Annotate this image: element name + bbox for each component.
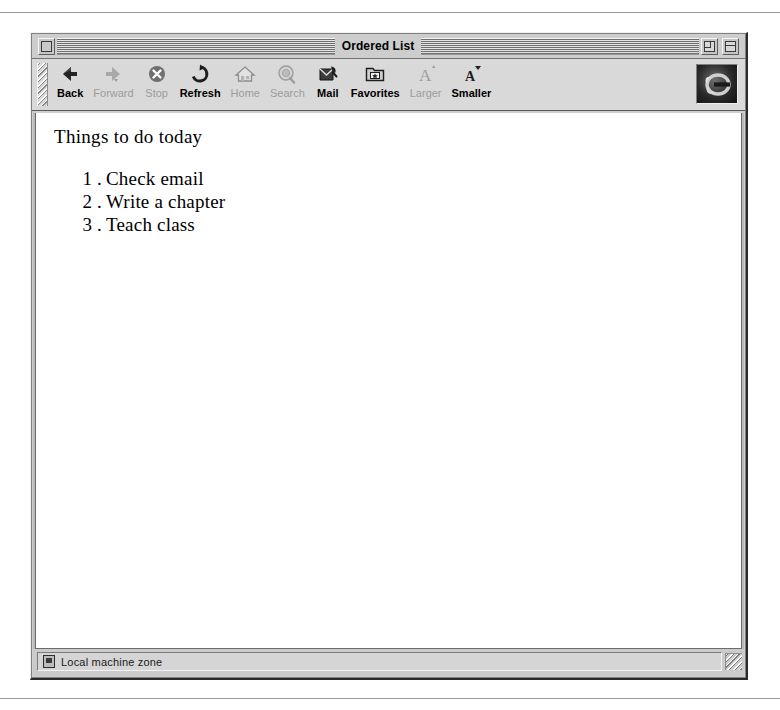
toolbar-label-forward: Forward xyxy=(93,87,133,99)
collapse-box[interactable] xyxy=(722,38,739,55)
stop-x-circle-icon xyxy=(144,63,170,85)
security-zone-field[interactable]: Local machine zone xyxy=(37,652,722,671)
toolbar-button-refresh[interactable]: Refresh xyxy=(175,63,226,99)
toolbar-button-search[interactable]: Search xyxy=(265,63,310,99)
toolbar-drag-handle[interactable] xyxy=(37,63,48,106)
toolbar-label-larger: Larger xyxy=(410,87,442,99)
toolbar-label-mail: Mail xyxy=(317,87,338,99)
toolbar-button-forward[interactable]: Forward xyxy=(88,63,138,99)
page-rule-bottom xyxy=(0,698,780,699)
list-item: 2 . Write a chapter xyxy=(106,190,725,213)
favorites-folder-star-icon xyxy=(362,63,388,85)
list-item-marker: 3 . xyxy=(76,213,102,236)
toolbar-button-group: Back Forward xyxy=(52,59,696,110)
resize-grip[interactable] xyxy=(725,653,742,670)
internet-explorer-logo[interactable] xyxy=(696,64,738,104)
toolbar-button-mail[interactable]: Mail xyxy=(310,63,346,99)
titlebar-pinstripe-right xyxy=(421,38,699,55)
toolbar-button-smaller[interactable]: A Smaller xyxy=(447,63,497,99)
search-magnifier-icon xyxy=(274,63,300,85)
toolbar-label-stop: Stop xyxy=(145,87,168,99)
list-item-text: Write a chapter xyxy=(106,191,225,212)
toolbar-label-search: Search xyxy=(270,87,305,99)
local-machine-zone-icon xyxy=(43,655,55,668)
content-area-well: Things to do today 1 . Check email 2 . W… xyxy=(33,113,744,649)
window-title: Ordered List xyxy=(335,40,422,53)
toolbar-label-favorites: Favorites xyxy=(351,87,400,99)
list-item-text: Check email xyxy=(106,168,204,189)
list-item: 3 . Teach class xyxy=(106,213,725,236)
page-heading: Things to do today xyxy=(54,125,725,149)
toolbar-button-home[interactable]: Home xyxy=(226,63,265,99)
browser-toolbar: Back Forward xyxy=(32,59,745,111)
home-house-icon xyxy=(232,63,258,85)
text-larger-a-icon: A xyxy=(413,63,439,85)
toolbar-label-refresh: Refresh xyxy=(180,87,221,99)
toolbar-label-back: Back xyxy=(57,87,83,99)
toolbar-button-stop[interactable]: Stop xyxy=(139,63,175,99)
svg-text:A: A xyxy=(465,69,476,84)
window-inner-frame: Ordered List xyxy=(31,33,746,678)
text-smaller-a-icon: A xyxy=(458,63,484,85)
forward-arrow-icon xyxy=(100,63,126,85)
mail-envelope-icon xyxy=(315,63,341,85)
collapse-box-glyph xyxy=(725,41,736,52)
page-rule-top xyxy=(0,12,780,13)
zoom-box[interactable] xyxy=(701,38,718,55)
svg-text:A: A xyxy=(419,66,432,84)
refresh-circle-icon xyxy=(187,63,213,85)
list-item: 1 . Check email xyxy=(106,167,725,190)
close-box[interactable] xyxy=(38,38,55,55)
close-box-glyph xyxy=(41,41,52,52)
security-zone-label: Local machine zone xyxy=(61,656,162,668)
zoom-box-glyph xyxy=(704,41,715,52)
list-item-marker: 1 . xyxy=(76,167,102,190)
ordered-list: 1 . Check email 2 . Write a chapter 3 . … xyxy=(54,167,725,236)
toolbar-label-home: Home xyxy=(231,87,260,99)
list-item-marker: 2 . xyxy=(76,190,102,213)
toolbar-label-smaller: Smaller xyxy=(452,87,492,99)
back-arrow-icon xyxy=(57,63,83,85)
titlebar[interactable]: Ordered List xyxy=(32,34,745,59)
list-item-text: Teach class xyxy=(106,214,195,235)
titlebar-pinstripe-left xyxy=(57,38,335,55)
page-content[interactable]: Things to do today 1 . Check email 2 . W… xyxy=(35,113,742,649)
statusbar: Local machine zone xyxy=(33,649,744,676)
toolbar-button-favorites[interactable]: Favorites xyxy=(346,63,405,99)
browser-window: Ordered List xyxy=(30,32,748,680)
toolbar-button-back[interactable]: Back xyxy=(52,63,88,99)
toolbar-button-larger[interactable]: A Larger xyxy=(405,63,447,99)
document-body: Things to do today 1 . Check email 2 . W… xyxy=(36,113,741,236)
